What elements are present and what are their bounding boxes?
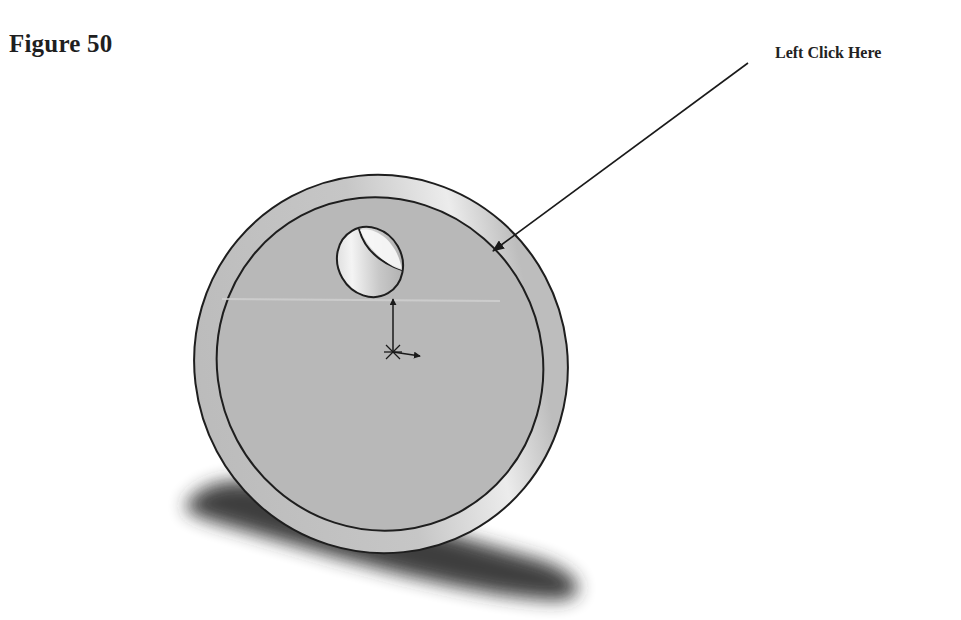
callout-arrow-icon: [493, 63, 748, 251]
cad-viewport: [0, 0, 961, 620]
